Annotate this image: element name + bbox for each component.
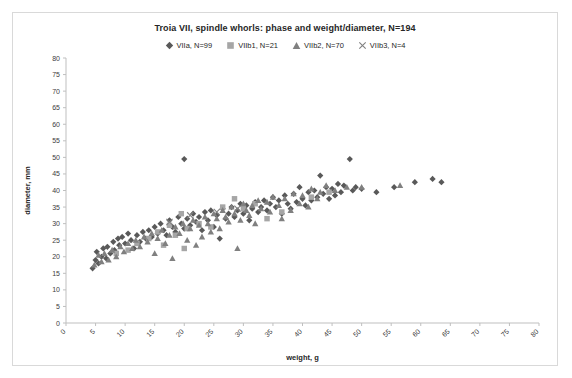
series-2: [91, 182, 403, 267]
data-point: [438, 179, 444, 185]
data-point: [338, 189, 344, 195]
chart-legend: VIIa, N=99 VIIb1, N=21 VIIb2, N=70 VIIb3…: [13, 41, 557, 50]
data-point: [347, 156, 353, 162]
data-point: [154, 235, 160, 241]
series-0: [90, 156, 445, 272]
data-point: [101, 250, 107, 256]
data-point: [199, 234, 205, 240]
x-tick-label: 40: [293, 328, 304, 339]
x-tick-label: 45: [322, 328, 333, 339]
data-point: [373, 189, 379, 195]
legend-item-viib1[interactable]: VIIb1, N=21: [226, 41, 278, 50]
legend-label-viia: VIIa, N=99: [177, 41, 213, 50]
legend-label-viib1: VIIb1, N=21: [238, 41, 278, 50]
data-point: [279, 215, 285, 221]
y-tick-label: 75: [52, 71, 60, 78]
data-point: [429, 176, 435, 182]
x-tick-label: 75: [500, 328, 511, 339]
data-point: [110, 239, 116, 245]
data-point: [285, 201, 291, 207]
y-tick-label: 55: [52, 137, 60, 144]
data-point: [232, 196, 237, 201]
data-point: [264, 216, 269, 221]
data-point: [332, 192, 338, 198]
x-tick-label: 35: [263, 328, 274, 339]
diamond-marker-icon: [165, 41, 174, 50]
data-points: [90, 156, 445, 272]
x-tick-label: 15: [145, 328, 156, 339]
y-tick-label: 40: [52, 187, 60, 194]
data-point: [181, 156, 187, 162]
data-point: [237, 217, 243, 223]
x-tick-label: 20: [174, 328, 185, 339]
data-point: [152, 224, 158, 230]
data-point: [184, 237, 190, 243]
legend-item-viib3[interactable]: VIIb3, N=4: [358, 41, 406, 50]
data-point: [158, 221, 164, 227]
chart-container: Troia VII, spindle whorls: phase and wei…: [12, 12, 558, 366]
y-tick-label: 20: [52, 253, 60, 260]
data-point: [335, 181, 341, 187]
chart-title: Troia VII, spindle whorls: phase and wei…: [13, 23, 557, 33]
data-point: [299, 192, 305, 198]
y-axis-title: diameter, mm: [23, 166, 32, 215]
x-tick-label: 5: [89, 328, 97, 336]
data-point: [246, 217, 252, 223]
data-point: [279, 209, 284, 214]
x-tick-label: 30: [234, 328, 245, 339]
data-point: [234, 245, 240, 251]
scatter-plot-area: 05101520253035404550556065707580 0510152…: [13, 13, 559, 367]
data-point: [179, 211, 184, 216]
x-axis: 05101520253035404550556065707580: [59, 323, 540, 338]
y-tick-label: 65: [52, 104, 60, 111]
data-point: [152, 250, 158, 256]
data-point: [317, 172, 323, 178]
data-point: [309, 194, 314, 199]
data-point: [326, 189, 331, 194]
y-tick-label: 10: [52, 286, 60, 293]
data-point: [217, 235, 223, 241]
data-point: [397, 182, 403, 188]
data-point: [193, 242, 199, 248]
y-tick-label: 80: [52, 55, 60, 62]
y-tick-label: 15: [52, 270, 60, 277]
data-point: [169, 255, 175, 261]
data-point: [326, 196, 332, 202]
data-point: [323, 182, 329, 188]
data-point: [358, 184, 364, 190]
x-tick-label: 25: [204, 328, 215, 339]
triangle-marker-icon: [292, 41, 301, 50]
y-tick-label: 30: [52, 220, 60, 227]
data-point: [205, 220, 211, 226]
x-tick-label: 10: [115, 328, 126, 339]
data-point: [412, 179, 418, 185]
data-point: [199, 227, 205, 233]
x-tick-label: 55: [381, 328, 392, 339]
series-1: [114, 189, 332, 256]
x-axis-title: weight, g: [285, 353, 319, 362]
legend-item-viib2[interactable]: VIIb2, N=70: [292, 41, 344, 50]
y-tick-label: 60: [52, 121, 60, 128]
data-point: [391, 184, 397, 190]
x-tick-label: 80: [529, 328, 540, 339]
y-tick-label: 70: [52, 88, 60, 95]
x-tick-label: 0: [59, 328, 67, 336]
legend-label-viib2: VIIb2, N=70: [304, 41, 344, 50]
data-point: [134, 232, 140, 238]
legend-label-viib3: VIIb3, N=4: [370, 41, 406, 50]
data-point: [217, 225, 223, 231]
y-tick-label: 5: [56, 303, 60, 310]
y-tick-label: 25: [52, 237, 60, 244]
square-marker-icon: [226, 41, 235, 50]
data-point: [140, 229, 146, 235]
legend-item-viia[interactable]: VIIa, N=99: [165, 41, 213, 50]
data-point: [202, 214, 208, 220]
data-point: [125, 230, 131, 236]
data-point: [182, 246, 187, 251]
cross-marker-icon: [358, 41, 367, 50]
x-tick-label: 60: [411, 328, 422, 339]
data-point: [214, 215, 220, 221]
x-tick-label: 65: [441, 328, 452, 339]
y-axis: 05101520253035404550556065707580: [52, 55, 66, 327]
y-tick-label: 0: [56, 320, 60, 327]
